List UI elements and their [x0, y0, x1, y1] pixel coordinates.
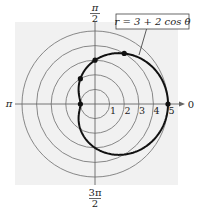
angle-label-3pi-over-2-num: 3π	[89, 187, 102, 198]
equation-label: r = 3 + 2 cos θ	[114, 16, 190, 27]
angle-label-pi-over-2-den: 2	[92, 13, 98, 24]
ring-label-1: 1	[110, 105, 116, 116]
ring-label-4: 4	[154, 105, 160, 116]
angle-label-3pi-over-2-den: 2	[92, 198, 98, 208]
ring-label-2: 2	[125, 105, 131, 116]
angle-label-pi-over-2-num: π	[91, 2, 99, 13]
polar-graph: 1 2 3 4 5 π 2 π 0 3π 2 r = 3 + 2 cos θ	[0, 0, 197, 208]
angle-label-pi: π	[5, 98, 13, 109]
point-r3-theta-pi2	[92, 58, 97, 63]
ring-label-3: 3	[139, 105, 145, 116]
angle-label-0: 0	[188, 99, 194, 110]
point-r4-theta-pi3	[122, 51, 127, 56]
point-r2-theta-2pi3	[78, 76, 83, 81]
axis-arrow-icon	[179, 102, 185, 107]
point-r1-theta-pi	[78, 101, 83, 106]
ring-label-5: 5	[169, 105, 175, 116]
